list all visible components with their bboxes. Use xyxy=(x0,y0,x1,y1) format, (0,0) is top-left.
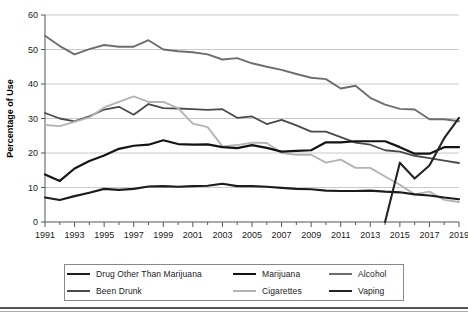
x-tick-label: 1991 xyxy=(35,230,55,240)
legend-label-vaping: Vaping xyxy=(358,287,384,296)
series-line-vaping xyxy=(385,118,459,222)
footer-divider xyxy=(0,307,468,309)
legend-label-drug-other-than-marijuana: Drug Other Than Marijuana xyxy=(96,270,202,279)
legend-label-alcohol: Alcohol xyxy=(358,270,387,279)
x-tick-label: 2009 xyxy=(301,230,321,240)
legend-item-been-drunk[interactable]: Been Drunk xyxy=(67,287,233,296)
legend-label-been-drunk: Been Drunk xyxy=(96,287,142,296)
x-tick-label: 2003 xyxy=(212,230,232,240)
y-tick-label: 0 xyxy=(33,217,38,227)
footer-divider-secondary xyxy=(0,311,468,312)
legend-label-marijuana: Marijuana xyxy=(262,270,300,279)
y-tick-label: 60 xyxy=(28,10,38,20)
chart-legend: Drug Other Than Marijuana Marijuana Alco… xyxy=(64,264,404,301)
x-tick-label: 1993 xyxy=(65,230,85,240)
x-tick-label: 2011 xyxy=(331,230,350,240)
y-tick-label: 50 xyxy=(28,45,38,55)
legend-swatch-cigarettes xyxy=(233,290,256,292)
x-tick-label: 2015 xyxy=(390,230,410,240)
chart-figure: 0102030405060199119931995199719992001200… xyxy=(0,0,468,319)
x-tick-label: 1995 xyxy=(94,230,114,240)
y-tick-label: 10 xyxy=(28,183,38,193)
x-tick-label: 2017 xyxy=(419,230,439,240)
x-tick-label: 2013 xyxy=(360,230,380,240)
legend-swatch-alcohol xyxy=(329,273,352,275)
y-tick-label: 40 xyxy=(28,79,38,89)
legend-item-cigarettes[interactable]: Cigarettes xyxy=(233,287,329,296)
legend-item-marijuana[interactable]: Marijuana xyxy=(233,270,329,279)
x-tick-label: 1997 xyxy=(124,230,144,240)
legend-label-cigarettes: Cigarettes xyxy=(262,287,302,296)
y-tick-label: 20 xyxy=(28,148,38,158)
legend-item-vaping[interactable]: Vaping xyxy=(329,287,407,296)
x-tick-label: 2019 xyxy=(449,230,468,240)
x-tick-label: 2001 xyxy=(183,230,203,240)
legend-swatch-been-drunk xyxy=(67,290,90,292)
y-tick-label: 30 xyxy=(28,114,38,124)
x-tick-label: 1999 xyxy=(153,230,173,240)
legend-swatch-drug-other-than-marijuana xyxy=(67,273,90,275)
legend-swatch-vaping xyxy=(329,290,352,292)
legend-swatch-marijuana xyxy=(233,273,256,275)
series-line-drug-other-than-marijuana xyxy=(45,184,459,200)
legend-item-drug-other-than-marijuana[interactable]: Drug Other Than Marijuana xyxy=(67,270,233,279)
x-tick-label: 2005 xyxy=(242,230,262,240)
y-axis-title: Percentage of Use xyxy=(5,79,15,158)
legend-item-alcohol[interactable]: Alcohol xyxy=(329,270,407,279)
x-tick-label: 2007 xyxy=(272,230,292,240)
